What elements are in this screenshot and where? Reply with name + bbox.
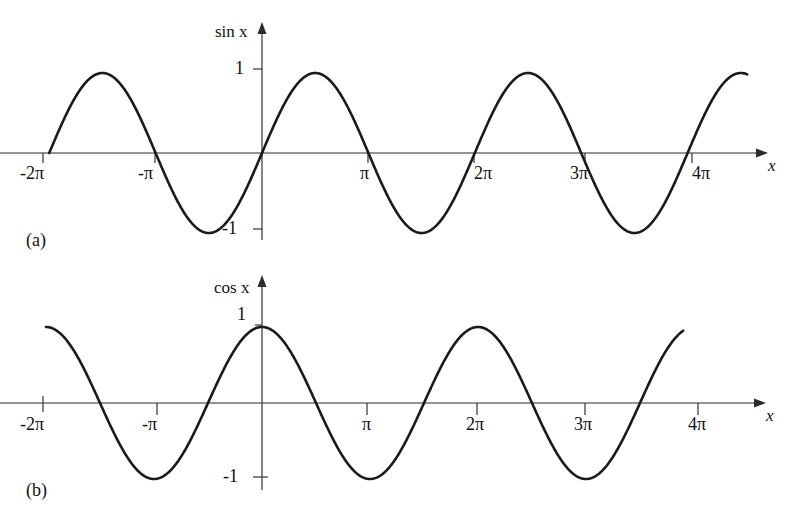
- cos-x-plot: [0, 265, 798, 529]
- panel-caption-a-text: (a): [26, 230, 46, 250]
- y-tick-label-neg1-b: -1: [223, 467, 238, 485]
- panel-sin-x: sin x x 1 -1 -2π -π π 2π 3π 4π (a): [0, 0, 798, 265]
- x-tick-label-4pi-b-text: 4π: [688, 414, 706, 434]
- y-axis-label-a: sin x: [215, 23, 248, 40]
- x-tick-label-neg2pi-a: -2π: [20, 164, 44, 182]
- x-tick-label-3pi-b: 3π: [574, 415, 592, 433]
- y-tick-label-1-a: 1: [235, 59, 244, 77]
- panel-caption-b: (b): [26, 481, 47, 499]
- x-tick-label-neg2pi-a-text: -2π: [20, 163, 44, 183]
- x-tick-label-negpi-b: -π: [142, 415, 157, 433]
- x-axis-arrowhead-b: [754, 399, 766, 408]
- x-tick-label-3pi-b-text: 3π: [574, 414, 592, 434]
- sin-x-plot: [0, 0, 798, 265]
- x-tick-label-negpi-a-text: -π: [138, 163, 153, 183]
- x-tick-label-pi-b: π: [362, 415, 371, 433]
- x-tick-label-pi-a-text: π: [360, 163, 369, 183]
- y-tick-label-neg1-a: -1: [222, 219, 237, 237]
- x-tick-label-4pi-a-text: 4π: [692, 163, 710, 183]
- x-tick-label-2pi-a: 2π: [474, 164, 492, 182]
- x-tick-label-2pi-b-text: 2π: [466, 414, 484, 434]
- x-tick-label-4pi-a: 4π: [692, 164, 710, 182]
- x-tick-label-negpi-b-text: -π: [142, 414, 157, 434]
- x-axis-arrowhead-a: [756, 149, 768, 158]
- panel-caption-a: (a): [26, 231, 46, 249]
- y-axis-label-b: cos x: [214, 279, 249, 296]
- panel-cos-x: cos x x 1 -1 -2π -π π 2π 3π 4π (b): [0, 265, 798, 529]
- x-tick-label-pi-b-text: π: [362, 414, 371, 434]
- x-tick-label-negpi-a: -π: [138, 164, 153, 182]
- x-tick-label-pi-a: π: [360, 164, 369, 182]
- x-tick-label-2pi-a-text: 2π: [474, 163, 492, 183]
- x-axis-label-b: x: [766, 407, 774, 424]
- x-tick-label-3pi-a: 3π: [570, 164, 588, 182]
- x-tick-label-neg2pi-b-text: -2π: [20, 414, 44, 434]
- x-tick-label-4pi-b: 4π: [688, 415, 706, 433]
- y-axis-arrowhead-a: [258, 22, 267, 34]
- panel-caption-b-text: (b): [26, 480, 47, 500]
- y-axis-label-b-text: cos x: [214, 278, 249, 297]
- x-tick-label-2pi-b: 2π: [466, 415, 484, 433]
- y-tick-label-1-a-text: 1: [235, 58, 244, 78]
- y-tick-label-neg1-b-text: -1: [223, 466, 238, 486]
- x-axis-label-a: x: [768, 157, 776, 174]
- y-axis-arrowhead-b: [258, 275, 267, 287]
- x-tick-label-3pi-a-text: 3π: [570, 163, 588, 183]
- y-tick-label-1-b: 1: [237, 305, 246, 323]
- trig-graphs-figure: sin x x 1 -1 -2π -π π 2π 3π 4π (a): [0, 0, 798, 529]
- x-axis-label-b-text: x: [766, 406, 774, 425]
- y-tick-label-neg1-a-text: -1: [222, 218, 237, 238]
- x-tick-label-neg2pi-b: -2π: [20, 415, 44, 433]
- y-axis-label-a-text: sin x: [215, 22, 248, 41]
- y-tick-label-1-b-text: 1: [237, 304, 246, 324]
- x-axis-label-a-text: x: [768, 156, 776, 175]
